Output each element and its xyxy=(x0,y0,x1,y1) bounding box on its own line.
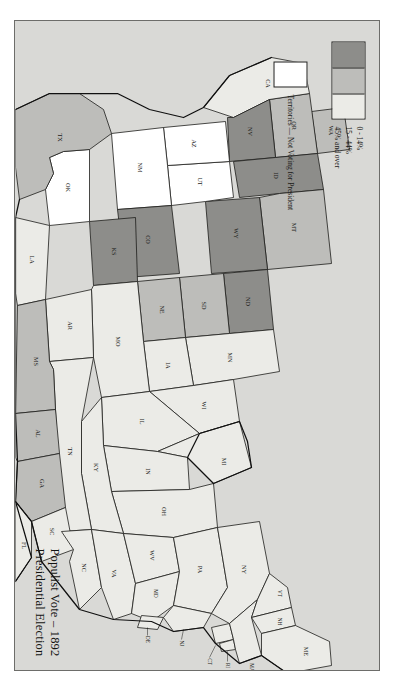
region-CT[interactable] xyxy=(211,623,233,643)
label-RI: RI xyxy=(225,662,231,667)
label-WI: WI xyxy=(201,401,208,409)
label-NV: NV xyxy=(247,127,254,136)
label-AZ: AZ xyxy=(191,139,198,147)
legend-swatch-15-44[interactable] xyxy=(332,67,364,92)
label-MT: MT xyxy=(291,222,298,232)
label-MO: MO xyxy=(115,336,122,347)
label-MN: MN xyxy=(227,352,234,363)
label-SC: SC xyxy=(49,527,56,535)
label-MA: MA xyxy=(249,663,255,670)
label-NM: NM xyxy=(137,162,144,172)
label-KY: KY xyxy=(93,463,100,472)
legend-territory-row: Territories — Not Voting for President xyxy=(273,61,307,210)
map-figure-frame: WA OR CA NV ID MT WY UT AZ NM CO ND SD N… xyxy=(14,20,380,671)
label-CT: CT xyxy=(207,658,213,665)
label-MI: MI xyxy=(221,457,228,465)
label-VT: VT xyxy=(277,590,283,598)
map-legend: 0 - 14% 15 - 44% 45% and over Territorie… xyxy=(331,41,365,291)
label-TX: TX xyxy=(57,133,64,142)
region-ME[interactable] xyxy=(261,625,331,670)
label-WV: WV xyxy=(149,550,156,561)
label-NY: NY xyxy=(241,565,248,574)
legend-swatch-45-and-over[interactable] xyxy=(332,42,364,67)
label-VA: VA xyxy=(111,569,118,578)
map-title-line-1: Populist Vote – 1892 xyxy=(46,548,61,656)
label-NJ: NJ xyxy=(179,640,185,646)
label-AL: AL xyxy=(35,429,42,437)
label-NE: NE xyxy=(159,305,166,313)
label-DE: DE xyxy=(145,636,151,643)
label-ME: ME xyxy=(303,646,310,656)
label-UT: UT xyxy=(197,177,204,185)
legend-label-territories: Territories — Not Voting for President xyxy=(286,94,295,210)
label-SD: SD xyxy=(201,301,208,309)
legend-swatch-territories[interactable] xyxy=(273,61,307,87)
label-TN: TN xyxy=(67,447,74,456)
label-CO: CO xyxy=(145,235,152,244)
legend-class-row: 0 - 14% 15 - 44% 45% and over xyxy=(331,41,365,291)
label-PA: PA xyxy=(197,565,204,573)
legend-label-stack: 0 - 14% 15 - 44% 45% and over xyxy=(332,126,365,168)
screenshot-root: WA OR CA NV ID MT WY UT AZ NM CO ND SD N… xyxy=(0,0,395,691)
label-AR: AR xyxy=(67,321,74,330)
legend-swatch-0-14[interactable] xyxy=(332,93,364,118)
map-title: Populist Vote – 1892 Presidential Electi… xyxy=(31,548,61,656)
label-MS: MS xyxy=(33,357,40,367)
legend-label-45-over: 45% and over xyxy=(332,126,343,168)
label-NH: NH xyxy=(277,617,283,625)
label-IN: IN xyxy=(145,468,152,475)
us-choropleth-map: WA OR CA NV ID MT WY UT AZ NM CO ND SD N… xyxy=(15,21,379,670)
label-IA: IA xyxy=(165,362,172,369)
label-MD: MD xyxy=(153,589,159,598)
rotated-map-stage: WA OR CA NV ID MT WY UT AZ NM CO ND SD N… xyxy=(15,21,379,670)
leader-CT xyxy=(209,645,215,657)
label-OK: OK xyxy=(65,183,72,192)
legend-swatch-strip xyxy=(331,41,365,119)
label-IL: IL xyxy=(139,418,146,424)
map-title-line-2: Presidential Election xyxy=(31,548,46,656)
label-ND: ND xyxy=(245,297,252,306)
legend-label-15-44: 15 - 44% xyxy=(343,126,354,168)
label-NC: NC xyxy=(81,563,88,572)
label-FL: FL xyxy=(21,541,28,548)
label-WY: WY xyxy=(233,228,240,239)
legend-label-0-14: 0 - 14% xyxy=(354,126,365,168)
label-GA: GA xyxy=(39,479,46,488)
label-KS: KS xyxy=(111,247,118,255)
label-LA: LA xyxy=(29,255,36,264)
label-CA: CA xyxy=(265,79,272,88)
label-OH: OH xyxy=(161,507,168,516)
